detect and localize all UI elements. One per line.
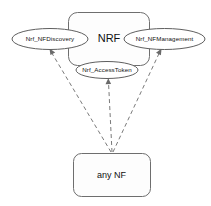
nrf-container-label: NRF — [88, 33, 130, 44]
any-nf-label: any NF — [73, 171, 150, 180]
service-label-discovery: Nrf_NFDiscovery — [12, 36, 88, 42]
arrow-head-access-token — [106, 78, 112, 84]
diagram-canvas: Nrf_NFDiscovery Nrf_NFManagement Nrf_Acc… — [0, 0, 211, 206]
service-label-access-token: Nrf_AccessToken — [76, 67, 138, 73]
connection-line-access-token — [109, 82, 113, 152]
service-label-management: Nrf_NFManagement — [124, 36, 205, 42]
